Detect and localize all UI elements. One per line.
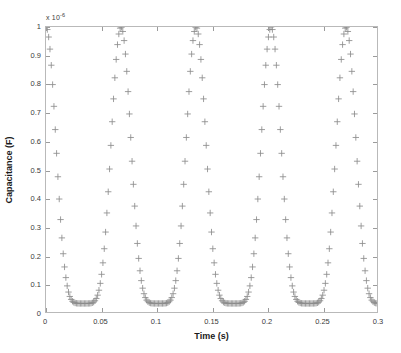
y-tick-label: 0.8 xyxy=(5,79,41,88)
data-point-marker xyxy=(109,119,115,125)
data-point-marker xyxy=(183,134,189,140)
data-point-marker xyxy=(253,216,259,222)
data-point-marker xyxy=(98,271,104,277)
data-point-marker xyxy=(324,271,330,277)
y-tick-mark xyxy=(46,228,50,229)
x-tick-mark xyxy=(268,27,269,31)
y-tick-mark xyxy=(46,113,50,114)
data-point-marker xyxy=(124,68,130,74)
y-tick-mark xyxy=(46,84,50,85)
data-point-marker xyxy=(330,189,336,195)
x-tick-mark xyxy=(102,308,103,312)
data-point-marker xyxy=(65,289,71,295)
data-point-marker xyxy=(126,111,132,117)
data-point-marker xyxy=(174,268,180,274)
y-tick-label: 0.6 xyxy=(5,136,41,145)
data-point-marker xyxy=(259,126,265,132)
data-point-marker xyxy=(290,289,296,295)
y-tick-label: 0 xyxy=(5,309,41,318)
y-exponent-power: -6 xyxy=(60,12,65,18)
y-tick-mark xyxy=(373,228,377,229)
data-point-marker xyxy=(282,216,288,222)
data-point-marker xyxy=(108,142,114,148)
data-point-marker xyxy=(196,41,202,47)
data-point-marker xyxy=(206,189,212,195)
data-point-marker xyxy=(281,196,287,202)
y-tick-mark xyxy=(46,56,50,57)
plot-area xyxy=(45,26,378,313)
data-point-marker xyxy=(349,68,355,74)
data-point-marker xyxy=(173,277,179,283)
data-point-marker xyxy=(365,285,371,291)
data-point-marker xyxy=(271,34,277,40)
data-point-marker xyxy=(320,292,326,298)
y-tick-mark xyxy=(46,199,50,200)
data-point-marker xyxy=(256,174,262,180)
data-point-marker xyxy=(350,88,356,94)
data-point-marker xyxy=(53,150,59,156)
data-point-marker xyxy=(112,75,118,81)
x-tick-label: 0.15 xyxy=(204,317,219,326)
x-tick-mark xyxy=(157,308,158,312)
data-point-marker xyxy=(200,96,206,102)
data-point-marker xyxy=(56,196,62,202)
data-point-marker xyxy=(343,27,349,30)
data-point-marker xyxy=(102,229,108,235)
data-point-marker xyxy=(346,37,352,43)
y-tick-mark xyxy=(373,171,377,172)
data-point-marker xyxy=(245,289,251,295)
data-point-marker xyxy=(52,126,58,132)
x-tick-label: 0.1 xyxy=(151,317,161,326)
data-point-marker xyxy=(61,264,67,270)
data-point-marker xyxy=(175,255,181,261)
data-point-marker xyxy=(327,229,333,235)
y-tick-label: 0.3 xyxy=(5,222,41,231)
data-point-marker xyxy=(181,181,187,187)
data-point-marker xyxy=(178,223,184,229)
y-tick-mark xyxy=(46,285,50,286)
y-axis-tick-labels: 00.10.20.30.40.50.60.70.80.91 xyxy=(0,26,41,313)
data-point-marker xyxy=(182,158,188,164)
data-point-marker xyxy=(289,283,295,289)
x-tick-mark xyxy=(46,308,47,312)
data-point-marker xyxy=(347,51,353,57)
data-point-marker xyxy=(179,203,185,209)
data-point-marker xyxy=(361,255,367,261)
data-point-marker xyxy=(203,142,209,148)
x-axis-title: Time (s) xyxy=(45,331,378,341)
data-point-marker xyxy=(363,277,369,283)
data-point-marker xyxy=(129,158,135,164)
x-tick-mark xyxy=(46,27,47,31)
data-point-marker xyxy=(355,181,361,187)
data-point-marker xyxy=(118,27,124,30)
data-point-marker xyxy=(184,111,190,117)
data-point-marker xyxy=(132,203,138,209)
data-point-marker xyxy=(260,103,266,109)
data-point-marker xyxy=(329,210,335,216)
data-point-marker xyxy=(257,150,263,156)
y-tick-label: 0.9 xyxy=(5,50,41,59)
y-axis-exponent-label: x 10-6 xyxy=(46,12,65,21)
y-tick-mark xyxy=(46,171,50,172)
data-point-marker xyxy=(101,246,107,252)
x-tick-mark xyxy=(102,27,103,31)
y-tick-label: 1 xyxy=(5,22,41,31)
data-point-marker xyxy=(55,174,61,180)
data-point-marker xyxy=(186,88,192,94)
data-point-marker xyxy=(130,181,136,187)
data-point-marker xyxy=(138,277,144,283)
data-point-marker xyxy=(278,150,284,156)
data-point-marker xyxy=(97,280,103,286)
data-point-marker xyxy=(48,62,54,68)
data-point-marker xyxy=(94,292,100,298)
x-tick-mark xyxy=(324,27,325,31)
data-point-marker xyxy=(276,103,282,109)
data-point-marker xyxy=(47,46,53,52)
x-tick-mark xyxy=(324,308,325,312)
data-point-marker xyxy=(133,223,139,229)
data-point-marker xyxy=(170,291,176,297)
data-point-marker xyxy=(139,285,145,291)
data-point-marker xyxy=(252,235,258,241)
data-point-marker xyxy=(366,291,372,297)
data-point-marker xyxy=(135,255,141,261)
